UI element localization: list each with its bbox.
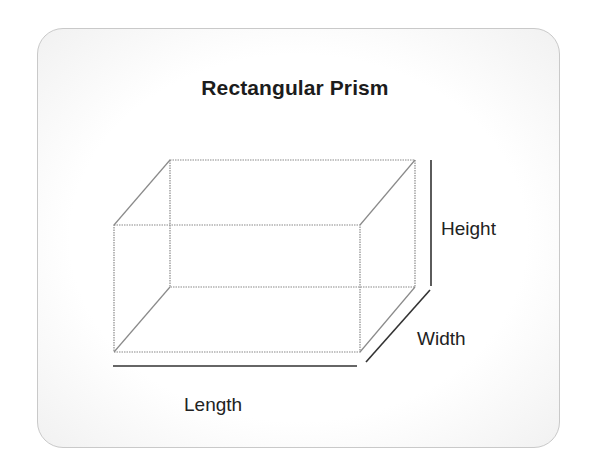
length-label: Length (184, 394, 242, 416)
dimension-lines (113, 160, 431, 366)
back-face (170, 160, 415, 287)
prism-edges (114, 160, 415, 352)
front-face (114, 225, 360, 352)
prism-depth-edges (114, 160, 415, 352)
height-label: Height (441, 218, 496, 240)
prism-diagram (0, 0, 590, 476)
width-label: Width (417, 328, 466, 350)
width-dimension-line (366, 290, 430, 362)
